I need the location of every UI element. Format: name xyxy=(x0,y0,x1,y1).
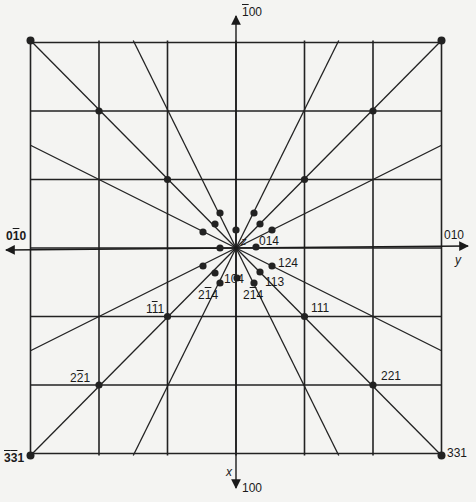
idx-h: 2 xyxy=(198,288,205,302)
idx-h: 2 xyxy=(243,288,250,302)
pole-dot xyxy=(250,209,257,216)
digit-0b: 0 xyxy=(19,229,26,243)
zone-line xyxy=(31,41,237,249)
idx-l: 1 xyxy=(83,371,90,385)
pole-dot xyxy=(95,381,102,388)
axis-arrows xyxy=(6,16,468,488)
axis-label-left: 010 xyxy=(6,230,26,242)
pole-dot xyxy=(216,279,223,286)
axis-label-bottom: 100 xyxy=(242,482,262,494)
digit-0: 0 xyxy=(6,229,13,243)
pole-dot xyxy=(95,107,102,114)
zone-line xyxy=(236,248,442,351)
bar-digit: 1 xyxy=(242,5,249,19)
zone-line xyxy=(133,41,236,249)
label-221: 221 xyxy=(381,370,401,382)
pole-dot xyxy=(369,381,376,388)
zone-line xyxy=(236,145,442,248)
label-331: 331 xyxy=(447,447,467,459)
pole-dot xyxy=(216,209,223,216)
idx-l: 4 xyxy=(256,288,263,302)
zone-line xyxy=(236,41,339,249)
label-1-bar1-1: 111 xyxy=(146,303,164,315)
label-014: 014 xyxy=(259,235,279,247)
pole-dot xyxy=(27,452,35,460)
rest-digits: 00 xyxy=(249,5,262,19)
zone-line xyxy=(236,41,442,249)
pole-dot xyxy=(438,452,446,460)
zone-line xyxy=(236,248,339,456)
axis-label-right: 010 xyxy=(444,229,464,241)
idx-h: 3 xyxy=(4,451,11,465)
zone-line xyxy=(133,248,236,456)
pole-dot xyxy=(164,176,171,183)
axis-name-x: x xyxy=(226,466,232,478)
pole-dot xyxy=(256,220,263,227)
label-2-bar1-4: 214 xyxy=(198,289,218,301)
zone-line xyxy=(31,248,237,456)
axis-name-y: y xyxy=(455,254,461,266)
label-3-3-1-bar: 331 xyxy=(4,452,24,464)
gnomonic-projection-diagram xyxy=(0,0,476,502)
label-113: 113 xyxy=(265,276,284,288)
pole-dot xyxy=(250,279,257,286)
label-214: 214 xyxy=(243,289,263,301)
idx-l: 4 xyxy=(211,288,218,302)
pole-dot xyxy=(438,37,446,45)
pole-dot xyxy=(301,313,308,320)
pole-dot xyxy=(199,262,206,269)
pole-dot xyxy=(211,269,218,276)
pole-dot xyxy=(301,176,308,183)
label-111: 111 xyxy=(311,302,329,314)
axis-name-z: z xyxy=(241,236,247,247)
idx-l: 1 xyxy=(158,302,165,316)
pole-dot xyxy=(164,313,171,320)
pole-dot xyxy=(256,268,263,275)
pole-dot xyxy=(268,226,275,233)
label-2-bar2-1: 221 xyxy=(70,372,90,384)
pole-dot xyxy=(199,228,206,235)
idx-h: 2 xyxy=(70,371,77,385)
idx-l: 1 xyxy=(17,451,24,465)
pole-dot xyxy=(369,107,376,114)
label-124: 124 xyxy=(278,257,298,269)
axis-label-top: 100 xyxy=(242,6,262,18)
pole-dot xyxy=(27,37,35,45)
pole-dot xyxy=(268,262,275,269)
label-104: 104 xyxy=(224,273,244,285)
pole-dot xyxy=(211,220,218,227)
pole-dot xyxy=(232,226,239,233)
pole-dot xyxy=(216,244,223,251)
